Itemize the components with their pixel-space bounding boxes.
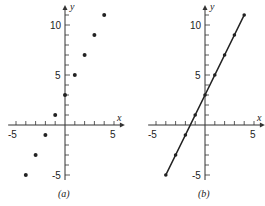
b-x-tick-neg5: -5 [148,129,157,140]
a-caption: (a) [58,188,70,200]
a-x-tick-neg5: -5 [8,129,17,140]
data-point [34,153,38,157]
a-y-axis-label: y [69,1,75,12]
y-axis-arrow-icon [203,5,208,10]
data-point [213,73,217,77]
a-y-tick-neg5: -5 [52,170,61,181]
data-point [92,33,96,37]
data-point [233,33,237,37]
data-point [164,173,168,177]
b-y-axis-label: y [209,1,215,12]
data-point [43,133,47,137]
figure: -5 5 10 5 -5 y x (a) -5 5 10 5 -5 y x (b… [0,0,265,206]
b-y-tick-5: 5 [195,70,201,81]
b-x-axis-label: x [256,112,262,123]
data-point [73,73,77,77]
x-axis-arrow-icon [260,123,265,128]
data-point [203,93,207,97]
panel-a-scatter [8,5,125,180]
a-x-tick-5: 5 [110,129,116,140]
y-axis-arrow-icon [63,5,68,10]
b-y-tick-neg5: -5 [192,170,201,181]
data-point [53,113,57,117]
a-y-tick-10: 10 [50,20,62,31]
b-y-tick-10: 10 [190,20,202,31]
data-point [242,13,246,17]
data-point [223,53,227,57]
x-axis-arrow-icon [120,123,125,128]
data-point [102,13,106,17]
data-point [63,93,67,97]
data-point [24,173,28,177]
data-point [193,113,197,117]
a-x-axis-label: x [116,112,122,123]
data-point [83,53,87,57]
panel-b-line [148,5,265,180]
b-caption: (b) [198,188,210,200]
data-point [174,153,178,157]
data-point [184,133,188,137]
a-y-tick-5: 5 [55,70,61,81]
b-x-tick-5: 5 [250,129,256,140]
